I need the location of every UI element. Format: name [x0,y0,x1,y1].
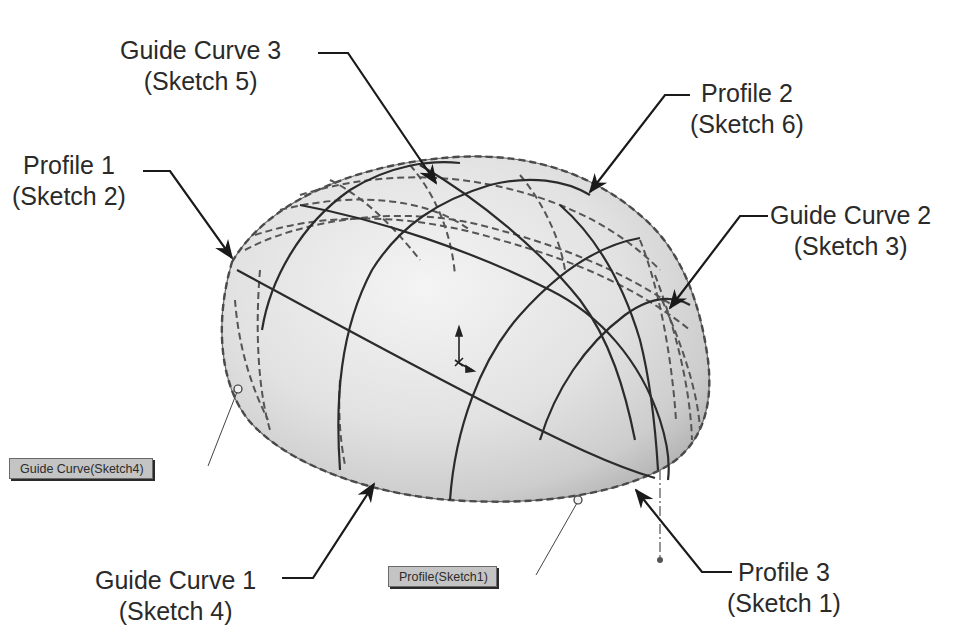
profile-callout[interactable]: Profile(Sketch1) [388,566,497,587]
label-title: Guide Curve 1 [95,565,256,596]
label-profile-3: Profile 3 (Sketch 1) [727,557,841,619]
label-guide-curve-3: Guide Curve 3 (Sketch 5) [120,35,281,97]
label-guide-curve-1: Guide Curve 1 (Sketch 4) [95,565,256,627]
leader-profile-2 [590,95,690,192]
label-sketch: (Sketch 6) [690,109,804,140]
label-sketch: (Sketch 3) [770,231,931,262]
leader-profile-1 [143,171,232,258]
profile-anchor [574,496,582,504]
label-profile-1: Profile 1 (Sketch 2) [12,150,126,212]
label-guide-curve-2: Guide Curve 2 (Sketch 3) [770,200,931,262]
guide-curve-callout[interactable]: Guide Curve(Sketch4) [9,458,153,479]
label-sketch: (Sketch 5) [120,66,281,97]
label-title: Profile 3 [727,557,841,588]
loft-diagram: Guide Curve 3 (Sketch 5) Profile 1 (Sket… [0,0,962,637]
label-title: Profile 2 [690,78,804,109]
guide-curve-anchor [234,385,242,393]
label-sketch: (Sketch 2) [12,181,126,212]
leader-profile-3 [636,490,732,572]
leader-guide-curve-1 [282,484,374,578]
label-profile-2: Profile 2 (Sketch 6) [690,78,804,140]
label-title: Profile 1 [12,150,126,181]
label-title: Guide Curve 3 [120,35,281,66]
label-sketch: (Sketch 4) [95,596,256,627]
label-sketch: (Sketch 1) [727,588,841,619]
label-title: Guide Curve 2 [770,200,931,231]
